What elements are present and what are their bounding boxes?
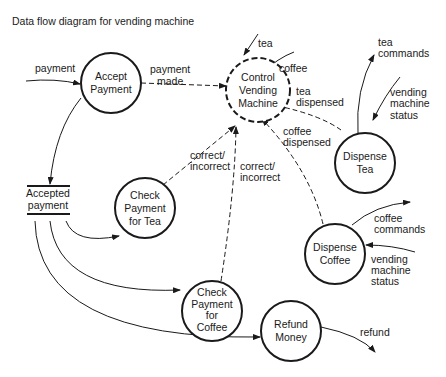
check-tea-label-3: for Tea [129, 215, 161, 227]
label-tea-commands-2: commands [378, 47, 429, 59]
label-correct-coffee-2: incorrect [240, 171, 280, 183]
process-accept-payment: Accept Payment [81, 53, 141, 113]
label-vending-status-tea-2: machine [390, 97, 430, 109]
control-label-2: Vending [239, 84, 277, 96]
check-coffee-label-1: Check [197, 286, 228, 298]
process-check-payment-tea: Check Payment for Tea [115, 178, 175, 238]
label-payment: payment [35, 62, 75, 74]
control-label-3: Machine [238, 97, 278, 109]
dispense-tea-label-2: Tea [357, 163, 374, 175]
accept-payment-label-1: Accept [95, 70, 127, 82]
dispense-tea-label-1: Dispense [343, 150, 387, 162]
label-coffee-commands-2: commands [374, 223, 425, 235]
label-refund: refund [360, 326, 390, 338]
data-store-label-1: Accepted [26, 187, 70, 199]
dispense-coffee-label-1: Dispense [313, 241, 357, 253]
label-coffee-dispensed-2: dispensed [283, 136, 331, 148]
flow-store-check-tea [66, 221, 119, 238]
label-payment-made-2: made [157, 75, 183, 87]
label-vending-status-coffee-3: status [371, 275, 399, 287]
data-flow-diagram: Accept Payment Control Vending Machine D… [0, 0, 446, 377]
process-check-payment-coffee: Check Payment for Coffee [182, 281, 242, 341]
process-dispense-tea: Dispense Tea [335, 133, 395, 193]
refund-money-label-1: Refund [274, 318, 308, 330]
label-vending-status-tea-3: status [390, 109, 418, 121]
data-store-accepted-payment: Accepted payment [26, 186, 70, 214]
label-payment-made-1: payment [150, 63, 190, 75]
flow-payment-made [141, 83, 226, 86]
label-tea: tea [258, 37, 273, 49]
flow-tea-commands [358, 55, 374, 134]
refund-money-label-2: Money [275, 331, 307, 343]
label-correct-tea-2: incorrect [190, 160, 230, 172]
process-refund-money: Refund Money [261, 301, 321, 361]
dispense-coffee-label-2: Coffee [320, 254, 351, 266]
flow-to-store [50, 98, 81, 184]
accept-payment-label-2: Payment [90, 83, 132, 95]
label-tea-dispensed-2: dispensed [296, 96, 344, 108]
data-store-label-2: payment [28, 199, 68, 211]
label-coffee: coffee [279, 62, 308, 74]
process-dispense-coffee: Dispense Coffee [305, 224, 365, 284]
check-tea-label-2: Payment [124, 202, 166, 214]
check-coffee-label-4: Coffee [197, 321, 228, 333]
check-coffee-label-3: for [206, 309, 219, 321]
flow-tea-control [244, 34, 258, 55]
flow-payment [26, 80, 80, 84]
check-tea-label-1: Check [130, 189, 161, 201]
control-label-1: Control [241, 71, 275, 83]
flow-vending-status-coffee [366, 245, 415, 252]
